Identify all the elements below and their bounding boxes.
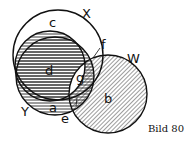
venn-diagram: X c f W d g b a Y e Bild 80	[0, 0, 191, 146]
label-a: a	[49, 101, 57, 114]
label-e: e	[61, 112, 69, 125]
label-b: b	[104, 92, 112, 105]
label-d: d	[45, 64, 53, 77]
label-f: f	[101, 38, 106, 51]
label-y: Y	[21, 105, 29, 118]
label-g: g	[76, 71, 84, 84]
label-x: X	[82, 7, 91, 20]
figure-caption: Bild 80	[148, 124, 184, 134]
label-w: W	[127, 52, 140, 65]
label-c: c	[49, 16, 56, 29]
